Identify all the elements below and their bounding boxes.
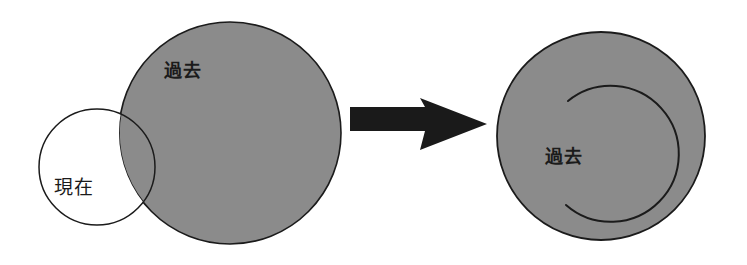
left-past-circle [119, 22, 341, 244]
left-present-label: 現在 [54, 176, 93, 198]
diagram-canvas: 過去 現在 過去 [0, 0, 747, 265]
right-past-circle [497, 32, 705, 240]
right-past-label: 過去 [545, 146, 582, 167]
arrow-right-icon [350, 98, 487, 150]
left-past-label: 過去 [164, 60, 201, 81]
set-diagram-figure: 過去 現在 過去 [0, 0, 747, 265]
transformation-arrow [350, 98, 487, 150]
left-panel-before-state: 過去 現在 [39, 22, 341, 244]
right-panel-after-state: 過去 [497, 32, 705, 240]
